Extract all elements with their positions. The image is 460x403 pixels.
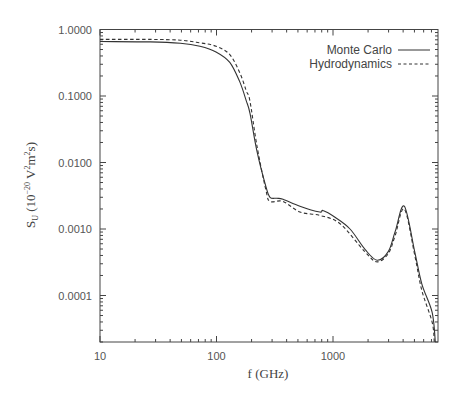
legend-label-monte-carlo: Monte Carlo: [327, 43, 393, 57]
series-monte-carlo: [100, 42, 435, 343]
y-axis-title-symbol: S: [23, 221, 38, 228]
spectral-density-chart: 101001000 1.00000.10000.01000.00100.0001…: [0, 0, 460, 403]
series-layer: [100, 39, 435, 342]
legend: Monte Carlo Hydrodynamics: [309, 43, 430, 71]
y-tick-label: 0.0001: [58, 290, 92, 302]
y-axis-title-unit-open: (10: [23, 194, 38, 215]
y-tick-label: 0.0010: [58, 223, 92, 235]
y-axis-title-volt: V: [23, 169, 38, 182]
x-axis-ticks: 101001000: [94, 30, 432, 363]
y-tick-label: 0.0100: [58, 157, 92, 169]
x-tick-label: 100: [207, 350, 225, 362]
legend-label-hydrodynamics: Hydrodynamics: [309, 57, 392, 71]
y-axis-title-exponent: −20: [23, 182, 32, 195]
y-axis-title-unit-close: s): [23, 142, 38, 151]
x-axis-title: f (GHz): [248, 366, 289, 381]
y-tick-label: 1.0000: [58, 24, 92, 36]
x-tick-label: 10: [94, 350, 106, 362]
y-tick-label: 0.1000: [58, 90, 92, 102]
y-axis-title-meter: m: [23, 155, 38, 165]
y-axis-ticks: 1.00000.10000.01000.00100.0001: [58, 24, 438, 342]
x-tick-label: 1000: [321, 350, 345, 362]
y-axis-title: SU (10−20 V2m2s): [23, 142, 40, 228]
plot-frame: [100, 30, 438, 343]
